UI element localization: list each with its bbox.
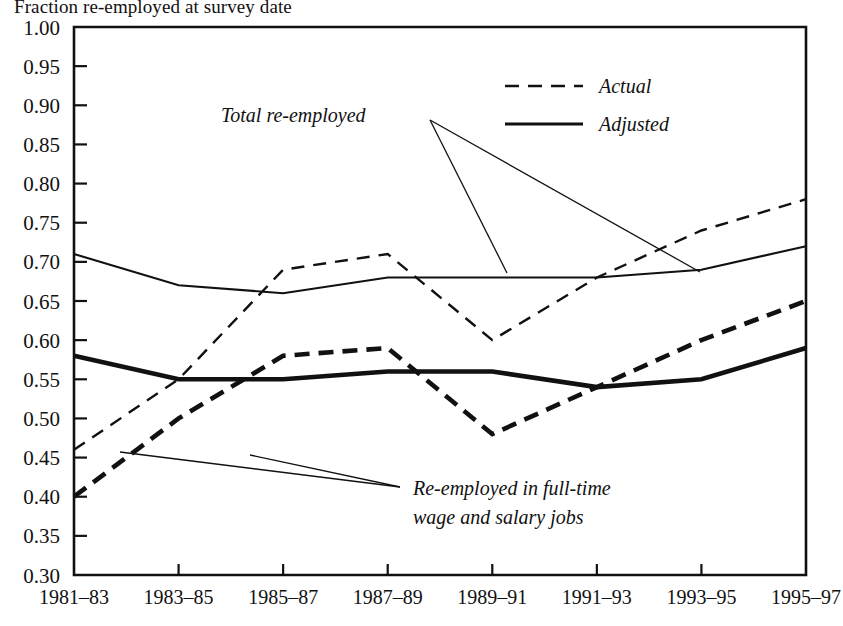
legend-label-actual: Actual [597,75,652,97]
data-series-line [74,301,806,497]
y-axis-tick-label: 0.85 [23,133,60,157]
y-axis-tick-label: 0.50 [23,407,60,431]
x-axis-tick-label: 1989–91 [457,586,527,608]
chart-canvas: 1.000.950.900.850.800.750.700.650.600.55… [0,0,843,626]
y-axis-tick-label: 0.35 [23,524,60,548]
y-axis-tick-label: 0.45 [23,446,60,470]
annotation-leader-line [430,120,700,272]
x-axis-tick-label: 1993–95 [666,586,736,608]
annotation-total-re-employed: Total re-employed [221,104,367,127]
y-axis-tick-label: 0.55 [23,368,60,392]
line-chart: 1.000.950.900.850.800.750.700.650.600.55… [0,0,843,626]
x-axis-tick-label: 1995–97 [771,586,841,608]
legend-label-adjusted: Adjusted [597,113,670,136]
x-axis-tick-label: 1987–89 [353,586,423,608]
x-axis-tick-label: 1991–93 [562,586,632,608]
x-axis-tick-label: 1981–83 [39,586,109,608]
y-axis-tick-label: 0.90 [23,94,60,118]
data-series-line [74,348,806,387]
annotation-fulltime-line1: Re-employed in full-time [412,477,611,500]
x-axis-tick-label: 1983–85 [144,586,214,608]
y-axis-tick-label: 1.00 [23,16,60,40]
annotation-fulltime-line2: wage and salary jobs [413,506,584,529]
y-axis-tick-label: 0.70 [23,250,60,274]
y-axis-tick-label: 0.60 [23,329,60,353]
y-axis-tick-label: 0.80 [23,172,60,196]
y-axis-tick-label: 0.40 [23,485,60,509]
y-axis-tick-label: 0.95 [23,55,60,79]
x-axis-tick-label: 1985–87 [248,586,318,608]
y-axis-tick-label: 0.30 [23,564,60,588]
y-axis-tick-label: 0.65 [23,290,60,314]
data-series-line [74,199,806,450]
y-axis-tick-label: 0.75 [23,211,60,235]
annotation-leader-line [430,120,507,273]
